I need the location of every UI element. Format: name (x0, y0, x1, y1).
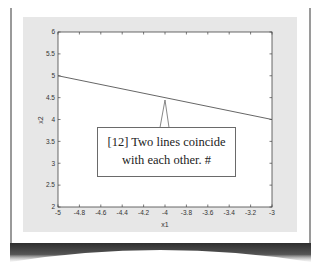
x-tick-label: -3.6 (202, 209, 214, 216)
y-tick-label: 4 (51, 116, 55, 123)
annotation-line-1: [12] Two lines coincide (98, 133, 235, 151)
x-tick-label: -4.2 (138, 209, 150, 216)
y-tick-label: 4.5 (46, 94, 55, 101)
x-tick-label: -4.6 (95, 209, 107, 216)
y-tick-label: 5 (51, 72, 55, 79)
x-axis-label: x1 (161, 221, 169, 228)
x-tick-label: -5 (55, 209, 61, 216)
x-tick-label: -4.4 (117, 209, 129, 216)
y-tick-label: 2.5 (46, 181, 55, 188)
y-tick-label: 5.5 (46, 50, 55, 57)
x-tick-label: -3.8 (181, 209, 193, 216)
y-tick-label: 3 (51, 160, 55, 167)
x-tick-label: -4 (162, 209, 168, 216)
y-tick-label: 2 (51, 203, 55, 210)
annotation-callout: [12] Two lines coincide with each other.… (97, 127, 236, 177)
y-tick-label: 3.5 (46, 138, 55, 145)
y-tick-label: 6 (51, 28, 55, 35)
x-tick-label: -4.8 (74, 209, 86, 216)
x-tick-label: -3.2 (245, 209, 257, 216)
x-tick-label: -3.4 (224, 209, 236, 216)
annotation-line-2: with each other. # (98, 151, 235, 169)
x-tick-label: -3 (269, 209, 275, 216)
y-axis-label: x2 (37, 116, 44, 124)
